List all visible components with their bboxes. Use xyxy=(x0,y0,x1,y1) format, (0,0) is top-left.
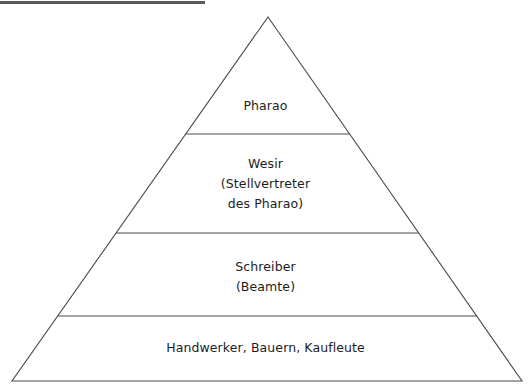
tier-3-line-2: (Beamte) xyxy=(0,277,531,297)
tier-2-line-3: des Pharao) xyxy=(0,194,531,214)
pyramid-diagram: Pharao Wesir (Stellvertreter des Pharao)… xyxy=(0,0,531,390)
tier-label-schreiber: Schreiber (Beamte) xyxy=(0,257,531,297)
tier-label-wesir: Wesir (Stellvertreter des Pharao) xyxy=(0,154,531,214)
tier-2-line-1: Wesir xyxy=(0,154,531,174)
tier-1-line-1: Pharao xyxy=(0,96,531,116)
tier-3-line-1: Schreiber xyxy=(0,257,531,277)
tier-4-line-1: Handwerker, Bauern, Kaufleute xyxy=(0,338,531,358)
tier-label-pharao: Pharao xyxy=(0,96,531,116)
tier-label-handwerker-bauern-kaufleute: Handwerker, Bauern, Kaufleute xyxy=(0,338,531,358)
tier-2-line-2: (Stellvertreter xyxy=(0,174,531,194)
